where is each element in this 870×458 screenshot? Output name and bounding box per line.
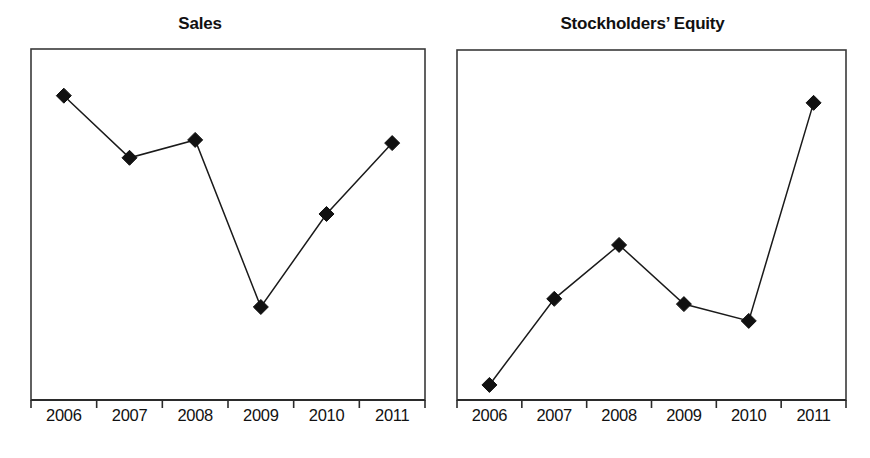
plot-frame-equity	[457, 50, 846, 400]
chart-panel-sales: Sales 200620072008200920102011	[0, 0, 440, 458]
x-axis-tick-label: 2010	[294, 406, 360, 425]
x-axis-labels-sales: 200620072008200920102011	[31, 406, 425, 432]
data-point-marker	[806, 95, 821, 110]
data-point-marker	[741, 313, 756, 328]
data-point-marker	[188, 132, 203, 147]
x-axis-tick-label: 2007	[97, 406, 163, 425]
data-point-marker	[482, 377, 497, 392]
data-line-equity	[489, 103, 813, 385]
data-markers-sales	[56, 88, 399, 314]
plot-area-equity	[430, 0, 870, 458]
x-axis-tick-label: 2006	[457, 406, 522, 425]
x-axis-tick-label: 2007	[522, 406, 587, 425]
data-line-sales	[64, 96, 392, 307]
x-axis-tick-label: 2009	[651, 406, 716, 425]
x-axis-tick-label: 2009	[228, 406, 294, 425]
data-markers-equity	[482, 95, 821, 392]
x-axis-tick-label: 2008	[587, 406, 652, 425]
x-axis-tick-label: 2006	[31, 406, 97, 425]
x-axis-tick-label: 2011	[781, 406, 846, 425]
chart-panel-equity: Stockholders’ Equity 2006200720082009201…	[430, 0, 870, 458]
data-point-marker	[253, 299, 268, 314]
x-axis-tick-label: 2010	[716, 406, 781, 425]
figure-root: Sales 200620072008200920102011 Stockhold…	[0, 0, 870, 458]
plot-area-sales	[0, 0, 440, 458]
x-axis-tick-label: 2011	[359, 406, 425, 425]
x-axis-labels-equity: 200620072008200920102011	[457, 406, 846, 432]
x-axis-tick-label: 2008	[162, 406, 228, 425]
